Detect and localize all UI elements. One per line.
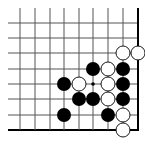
black-stone[interactable] — [86, 92, 100, 106]
go-board[interactable] — [0, 0, 145, 156]
black-stone[interactable] — [72, 92, 86, 106]
white-stone[interactable] — [72, 77, 86, 91]
white-stone[interactable] — [101, 92, 115, 106]
star-point — [91, 82, 95, 86]
black-stone[interactable] — [116, 92, 130, 106]
black-stone[interactable] — [116, 77, 130, 91]
go-board-canvas[interactable] — [0, 0, 145, 156]
black-stone[interactable] — [86, 62, 100, 76]
black-stone[interactable] — [57, 108, 71, 122]
white-stone[interactable] — [131, 46, 145, 60]
white-stone[interactable] — [101, 77, 115, 91]
black-stone[interactable] — [116, 62, 130, 76]
white-stone[interactable] — [101, 62, 115, 76]
white-stone[interactable] — [116, 123, 130, 137]
white-stone[interactable] — [116, 46, 130, 60]
white-stone[interactable] — [116, 108, 130, 122]
black-stone[interactable] — [57, 77, 71, 91]
black-stone[interactable] — [101, 108, 115, 122]
